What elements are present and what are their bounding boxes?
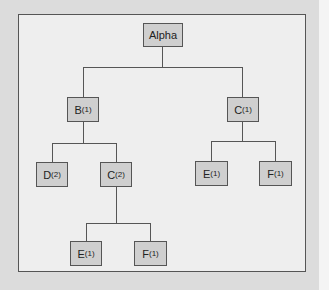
node-f1-low: F(1) <box>134 241 167 266</box>
node-b1: B(1) <box>67 97 99 122</box>
node-label: F <box>267 168 274 180</box>
node-label: C <box>107 169 115 181</box>
node-label: B <box>74 104 81 116</box>
node-label: D <box>43 169 51 181</box>
edge-b1-trunk <box>83 122 84 143</box>
edge-to-c2 <box>116 143 117 162</box>
node-e1-right: E(1) <box>195 161 228 186</box>
edge-to-b1 <box>83 67 84 97</box>
node-e1-low: E(1) <box>70 241 102 266</box>
edge-to-e1-right <box>211 141 212 161</box>
edge-to-f1-low <box>150 223 151 241</box>
node-f1-right: F(1) <box>259 161 292 186</box>
edge-to-f1-right <box>275 141 276 161</box>
node-c2: C(2) <box>100 162 132 187</box>
edge-b1-bar <box>52 143 117 144</box>
node-alpha: Alpha <box>143 23 183 47</box>
node-d2: D(2) <box>36 162 68 187</box>
edge-to-d2 <box>52 143 53 162</box>
edge-alpha-trunk <box>162 47 163 67</box>
edge-c2-trunk <box>116 187 117 223</box>
edge-top-bar <box>83 67 243 68</box>
edge-c1-trunk <box>242 122 243 141</box>
edge-c1-bar <box>211 141 276 142</box>
node-label: C <box>234 104 242 116</box>
right-margin <box>319 0 329 290</box>
edge-to-e1-low <box>86 223 87 241</box>
node-label: Alpha <box>149 29 177 41</box>
edge-c2-bar <box>86 223 151 224</box>
node-label: E <box>203 168 210 180</box>
node-label: E <box>77 248 84 260</box>
edge-to-c1 <box>242 67 243 97</box>
node-label: F <box>142 248 149 260</box>
node-c1: C(1) <box>227 97 259 122</box>
